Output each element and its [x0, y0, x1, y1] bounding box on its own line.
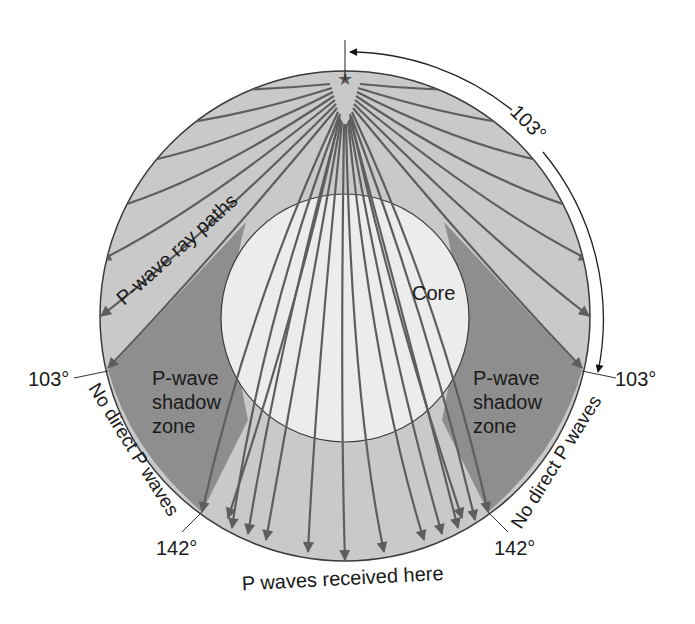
tick-103-left	[74, 371, 108, 378]
core	[221, 194, 469, 442]
label-103-right: 103°	[615, 368, 656, 390]
tick-103-right	[582, 371, 616, 378]
label-103-left: 103°	[28, 368, 69, 390]
label-142-left: 142°	[156, 537, 197, 559]
label-shadow-left-1: P-wave	[152, 367, 219, 389]
tick-142-left	[182, 512, 202, 532]
tick-142-right	[488, 512, 508, 532]
earth-shadow-zone-diagram: ★ 103° 103° 103° 142° 142° P-wave ray pa…	[0, 0, 695, 624]
label-shadow-right-3: zone	[473, 415, 516, 437]
label-core: Core	[412, 282, 455, 304]
label-shadow-right-2: shadow	[473, 391, 542, 413]
label-shadow-right-1: P-wave	[473, 367, 540, 389]
label-shadow-left-3: zone	[152, 415, 195, 437]
label-received-here: P waves received here	[241, 562, 444, 595]
label-142-right: 142°	[494, 537, 535, 559]
label-shadow-left-2: shadow	[152, 391, 221, 413]
